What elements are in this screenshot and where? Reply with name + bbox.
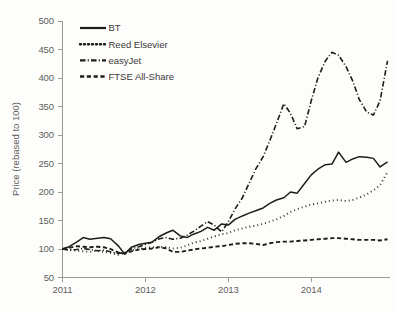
y-axis-title: Price (rebased to 100): [10, 102, 21, 196]
x-axis-tick-label: 2012: [135, 284, 156, 295]
data-series-group: [63, 52, 388, 254]
y-axis-tick-label: 500: [38, 15, 54, 26]
y-axis-tick-label: 250: [38, 158, 54, 169]
y-axis-tick-label: 100: [38, 243, 54, 254]
legend-label: Reed Elsevier: [109, 39, 168, 50]
y-axis-tick-label: 350: [38, 101, 54, 112]
y-axis-tick-label: 400: [38, 72, 54, 83]
legend-label: easyJet: [109, 55, 142, 66]
x-axis-tick-group: 2011201220132014: [52, 278, 321, 296]
series-line: [63, 172, 388, 255]
chart-legend: BTReed ElseviereasyJetFTSE All-Share: [80, 22, 174, 82]
chart-container: 50045040035030025020015010050 2011201220…: [0, 0, 398, 312]
x-axis-tick-label: 2014: [301, 284, 322, 295]
x-axis-tick-label: 2011: [52, 284, 72, 295]
y-axis-tick-label: 450: [38, 44, 54, 55]
line-chart: 50045040035030025020015010050 2011201220…: [0, 0, 398, 312]
y-axis-tick-group: 50045040035030025020015010050: [38, 15, 62, 283]
legend-label: BT: [109, 22, 121, 33]
y-axis-tick-label: 200: [38, 186, 54, 197]
y-axis-tick-label: 50: [44, 272, 54, 283]
y-axis-tick-label: 150: [38, 215, 54, 226]
y-axis-tick-label: 300: [38, 129, 54, 140]
legend-label: FTSE All-Share: [109, 71, 174, 82]
x-axis-tick-label: 2013: [218, 284, 239, 295]
